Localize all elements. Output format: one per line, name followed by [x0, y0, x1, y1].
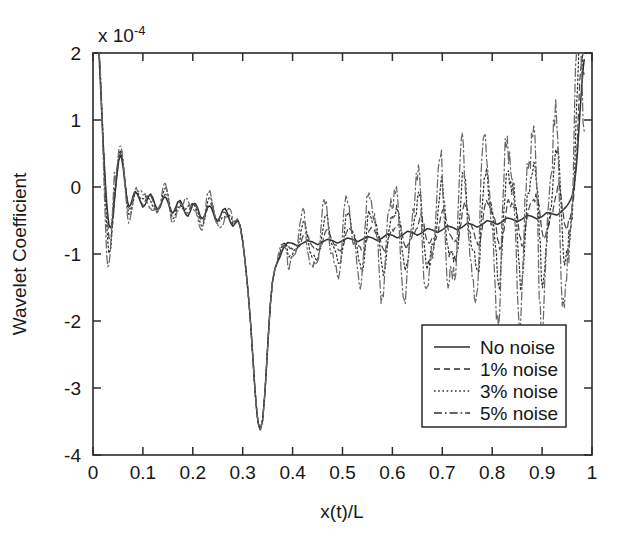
x-axis-label: x(t)/L: [320, 501, 363, 522]
y-tick-label: -4: [64, 445, 81, 466]
legend-label: No noise: [480, 337, 555, 358]
x-tick-label: 0.7: [429, 462, 455, 483]
x-tick-label: 0.1: [130, 462, 156, 483]
y-axis-exponent-label: x 10-4: [98, 23, 145, 46]
x-tick-label: 0.3: [229, 462, 255, 483]
legend-label: 5% noise: [480, 403, 558, 424]
y-axis-label: Wavelet Coefficient: [9, 172, 30, 335]
y-tick-label: 1: [70, 110, 81, 131]
y-tick-label: -2: [64, 311, 81, 332]
x-tick-label: 0.2: [180, 462, 206, 483]
x-tick-label: 0.4: [279, 462, 306, 483]
x-tick-label: 1: [587, 462, 598, 483]
y-tick-label: 0: [70, 177, 81, 198]
x-axis-tick-labels: 00.10.20.30.40.50.60.70.80.91: [88, 462, 598, 483]
x-tick-label: 0: [88, 462, 99, 483]
y-tick-label: -1: [64, 244, 81, 265]
y-tick-label: -3: [64, 378, 81, 399]
x-tick-label: 0.9: [529, 462, 555, 483]
chart-legend: No noise1% noise3% noise5% noise: [422, 325, 566, 427]
x-tick-label: 0.8: [479, 462, 505, 483]
y-tick-label: 2: [70, 43, 81, 64]
wavelet-coefficient-figure: 00.10.20.30.40.50.60.70.80.91 210-1-2-3-…: [0, 0, 619, 539]
legend-label: 3% noise: [480, 381, 558, 402]
legend-label: 1% noise: [480, 359, 558, 380]
chart-canvas: 00.10.20.30.40.50.60.70.80.91 210-1-2-3-…: [0, 0, 619, 539]
x-tick-label: 0.5: [329, 462, 355, 483]
x-tick-label: 0.6: [379, 462, 405, 483]
y-axis-tick-labels: 210-1-2-3-4: [64, 43, 81, 466]
